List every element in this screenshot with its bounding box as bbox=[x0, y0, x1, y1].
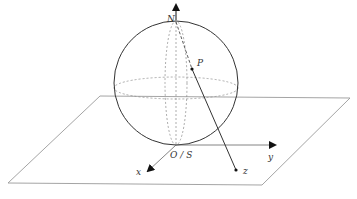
label-z: z bbox=[242, 166, 248, 176]
label-north: N bbox=[166, 14, 176, 24]
projection-line bbox=[192, 69, 236, 170]
stereographic-projection-diagram: N P O / S y x z bbox=[0, 0, 357, 199]
point-z bbox=[234, 168, 237, 171]
label-origin: O / S bbox=[170, 150, 192, 160]
label-y: y bbox=[267, 152, 274, 162]
label-p: P bbox=[196, 58, 204, 68]
projection-line-inside bbox=[176, 22, 192, 69]
complex-plane bbox=[8, 96, 350, 185]
label-x: x bbox=[136, 167, 141, 177]
point-p bbox=[190, 67, 193, 70]
